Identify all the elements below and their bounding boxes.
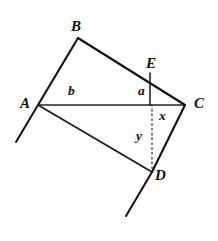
vertex-label-c: C	[194, 96, 204, 111]
vertex-label-e: E	[146, 56, 156, 71]
figure-canvas	[0, 0, 218, 241]
edge-cd	[152, 105, 185, 172]
segment-label-b: b	[68, 84, 75, 98]
vertex-label-a: A	[20, 96, 30, 111]
segment-label-y: y	[136, 129, 142, 143]
edge-da	[38, 105, 152, 172]
edge-bc	[78, 38, 185, 105]
geometry-figure: A B C D E b a x y	[0, 0, 218, 241]
segment-label-x: x	[159, 109, 166, 123]
vertex-label-b: B	[71, 19, 81, 34]
ray-cd-extended	[126, 172, 152, 216]
vertex-label-d: D	[155, 168, 166, 183]
segment-label-a: a	[138, 84, 145, 98]
